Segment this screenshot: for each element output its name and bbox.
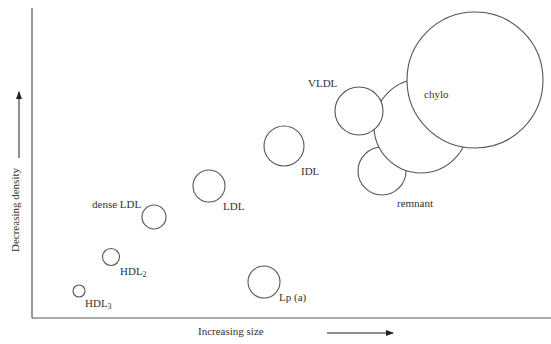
- x-axis-label: Increasing size: [198, 326, 264, 337]
- dense-ldl-circle: [142, 205, 166, 229]
- chylo-label: chylo: [424, 89, 448, 100]
- y-axis-label: Decreasing density: [10, 168, 21, 252]
- remnant-label: remnant: [397, 198, 433, 209]
- chylo-circle: [407, 12, 543, 148]
- lpa-label: Lp (a): [279, 292, 306, 303]
- hdl3-circle: [73, 285, 85, 297]
- vldl-circle: [335, 87, 383, 135]
- lpa-circle: [248, 266, 280, 298]
- ldl-label: LDL: [223, 201, 244, 212]
- ldl-circle: [193, 170, 225, 202]
- idl-circle: [264, 126, 304, 166]
- idl-label: IDL: [301, 166, 319, 177]
- hdl3-label: HDL3: [85, 298, 112, 311]
- hdl2-circle: [103, 249, 120, 266]
- vldl-label: VLDL: [308, 78, 337, 89]
- hdl2-label: HDL2: [120, 266, 147, 279]
- dense-ldl-label: dense LDL: [92, 199, 141, 210]
- diagram-canvas: [0, 0, 551, 344]
